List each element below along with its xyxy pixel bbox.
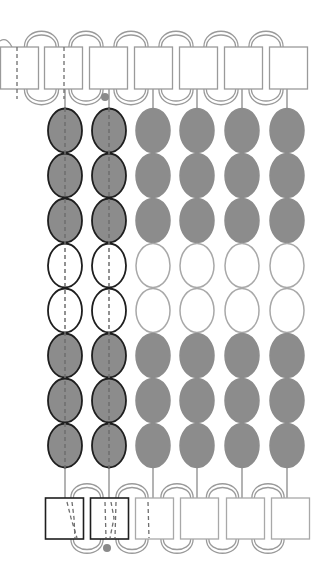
filled-bead — [225, 154, 259, 198]
filled-bead — [180, 379, 214, 423]
knot-dot — [103, 544, 111, 552]
filled-bead — [270, 154, 304, 198]
bottom-frame — [136, 498, 174, 539]
bottom-frame — [46, 498, 84, 539]
bottom-loop-arc — [118, 539, 145, 550]
filled-bead — [136, 199, 170, 243]
bottom-loop-arc — [209, 539, 236, 550]
top-loop-arc — [251, 89, 280, 101]
filled-bead — [270, 199, 304, 243]
filled-bead — [136, 424, 170, 468]
empty-bead — [180, 244, 214, 288]
bottom-loop-arc — [118, 488, 145, 499]
filled-bead — [270, 109, 304, 153]
top-frame — [90, 47, 128, 89]
top-frame — [270, 47, 308, 89]
empty-bead — [270, 244, 304, 288]
knot-dot — [101, 93, 109, 101]
filled-bead — [180, 199, 214, 243]
top-loop-arc — [116, 89, 145, 101]
filled-bead — [92, 379, 126, 423]
filled-bead — [180, 154, 214, 198]
filled-bead — [136, 109, 170, 153]
bead-pattern-diagram — [0, 0, 323, 584]
filled-bead — [225, 334, 259, 378]
empty-bead — [225, 289, 259, 333]
bead-diagram-canvas — [0, 0, 323, 584]
filled-bead — [180, 334, 214, 378]
empty-bead — [136, 289, 170, 333]
top-frame — [135, 47, 173, 89]
empty-bead — [270, 289, 304, 333]
bottom-loop-arc — [209, 488, 236, 499]
filled-bead — [180, 424, 214, 468]
filled-bead — [180, 109, 214, 153]
top-loop-arc — [161, 89, 190, 101]
bottom-frame — [181, 498, 219, 539]
bottom-loop-arc — [254, 488, 281, 499]
top-frame — [1, 47, 39, 89]
filled-bead — [225, 379, 259, 423]
bottom-loop-arc — [73, 539, 100, 550]
filled-bead — [225, 199, 259, 243]
filled-bead — [270, 334, 304, 378]
top-frame — [180, 47, 218, 89]
bottom-loop-arc — [73, 488, 100, 499]
filled-bead — [225, 424, 259, 468]
filled-bead — [136, 154, 170, 198]
filled-bead — [270, 424, 304, 468]
top-loop-arc — [71, 89, 100, 101]
bottom-frame — [272, 498, 310, 539]
empty-bead — [180, 289, 214, 333]
bottom-loop-arc — [163, 488, 190, 499]
empty-bead — [225, 244, 259, 288]
top-loop-arc — [116, 35, 145, 47]
bottom-frame — [91, 498, 129, 539]
filled-bead — [136, 379, 170, 423]
bottom-loop-arc — [163, 539, 190, 550]
top-loop-arc — [27, 35, 56, 47]
filled-bead — [48, 379, 82, 423]
top-loop-arc — [161, 35, 190, 47]
top-loop-arc — [206, 89, 235, 101]
top-loop-arc — [0, 40, 12, 47]
top-frame — [225, 47, 263, 89]
filled-bead — [225, 109, 259, 153]
empty-bead — [136, 244, 170, 288]
bottom-loop-arc — [254, 539, 281, 550]
top-loop-arc — [251, 35, 280, 47]
filled-bead — [136, 334, 170, 378]
top-loop-arc — [27, 89, 56, 101]
filled-bead — [270, 379, 304, 423]
bottom-frame — [227, 498, 265, 539]
top-loop-arc — [206, 35, 235, 47]
top-loop-arc — [71, 35, 100, 47]
